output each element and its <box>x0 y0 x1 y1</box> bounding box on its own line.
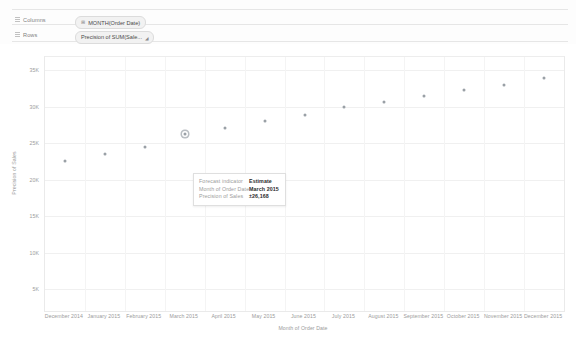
data-point[interactable] <box>263 120 266 123</box>
x-axis-tick-label: January 2015 <box>88 313 121 319</box>
y-axis-title: Precision of Sales <box>11 151 17 194</box>
tooltip-value: March 2015 <box>249 186 279 192</box>
gridline-horizontal <box>45 216 564 217</box>
gridline-vertical <box>524 57 525 311</box>
tooltip-row: Month of Order Date March 2015 <box>199 186 279 194</box>
data-point[interactable] <box>223 127 226 130</box>
gridline-vertical <box>85 57 86 311</box>
expand-plus-icon[interactable]: ⊞ <box>81 20 85 25</box>
gridline-horizontal <box>45 180 564 181</box>
gridline-horizontal <box>45 253 564 254</box>
tooltip-row: Precision of Sales ±26,168 <box>199 193 279 201</box>
tooltip: Forecast indicator Estimate Month of Ord… <box>193 173 286 206</box>
gridline-vertical <box>125 57 126 311</box>
x-axis-title: Month of Order Date <box>278 325 327 331</box>
data-point[interactable] <box>63 160 66 163</box>
rows-label-text: Rows <box>23 32 37 38</box>
data-point[interactable] <box>103 152 106 155</box>
columns-shelf-label: Columns <box>15 17 63 23</box>
gridline-vertical <box>324 57 325 311</box>
visualization-area: 35K30K25K20K15K10K5K Precision of Sales … <box>0 45 576 357</box>
x-axis-tick-label: August 2015 <box>368 313 398 319</box>
x-axis-tick-label: May 2015 <box>252 313 276 319</box>
shelf-area: Columns ⊞ MONTH(Order Date) Rows Precisi… <box>0 0 576 44</box>
y-axis: 35K30K25K20K15K10K5K <box>0 56 44 310</box>
gridline-vertical <box>484 57 485 311</box>
data-point[interactable] <box>383 101 386 104</box>
x-axis-tick-label: February 2015 <box>126 313 161 319</box>
data-point-selected[interactable] <box>183 133 186 136</box>
tooltip-key: Precision of Sales <box>199 193 249 199</box>
gridline-vertical <box>364 57 365 311</box>
y-axis-tick-label: 10K <box>29 250 39 256</box>
plot-area[interactable] <box>44 56 565 312</box>
y-axis-tick-label: 15K <box>29 213 39 219</box>
pill-label: Precision of SUM(Sale... <box>81 34 142 40</box>
gridline-horizontal <box>45 289 564 290</box>
data-point[interactable] <box>343 106 346 109</box>
tooltip-key: Month of Order Date <box>199 186 249 192</box>
y-axis-tick-label: 5K <box>32 286 39 292</box>
y-axis-tick-label: 20K <box>29 177 39 183</box>
x-axis-tick-label: September 2015 <box>403 313 443 319</box>
tooltip-value: ±26,168 <box>249 193 269 199</box>
gridline-vertical <box>165 57 166 311</box>
rows-shelf[interactable]: Rows Precision of SUM(Sale... ◢ <box>0 27 576 42</box>
data-point[interactable] <box>303 114 306 117</box>
rows-shelf-label: Rows <box>15 32 63 38</box>
pill-precision-of-sales[interactable]: Precision of SUM(Sale... ◢ <box>75 31 154 44</box>
x-axis-tick-label: March 2015 <box>170 313 198 319</box>
tableau-worksheet: Columns ⊞ MONTH(Order Date) Rows Precisi… <box>0 0 576 357</box>
data-point[interactable] <box>143 145 146 148</box>
y-axis-tick-label: 25K <box>29 140 39 146</box>
y-axis-tick-label: 30K <box>29 104 39 110</box>
grip-icon <box>15 32 20 37</box>
x-axis-tick-label: December 2015 <box>524 313 562 319</box>
tooltip-value: Estimate <box>249 178 272 184</box>
gridline-horizontal <box>45 143 564 144</box>
rows-shelf-slot[interactable]: Precision of SUM(Sale... ◢ <box>75 25 154 44</box>
gridline-vertical <box>444 57 445 311</box>
gridline-horizontal <box>45 70 564 71</box>
columns-label-text: Columns <box>23 17 46 23</box>
tooltip-row: Forecast indicator Estimate <box>199 178 279 186</box>
x-axis-tick-label: July 2015 <box>332 313 355 319</box>
data-point[interactable] <box>543 77 546 80</box>
x-axis-tick-label: June 2015 <box>291 313 316 319</box>
y-axis-tick-label: 35K <box>29 67 39 73</box>
x-axis: December 2014January 2015February 2015Ma… <box>44 313 563 325</box>
x-axis-tick-label: December 2014 <box>45 313 83 319</box>
grip-icon <box>15 17 20 22</box>
chevron-down-icon[interactable]: ◢ <box>145 35 149 40</box>
x-axis-tick-label: November 2015 <box>484 313 522 319</box>
gridline-vertical <box>404 57 405 311</box>
tooltip-key: Forecast indicator <box>199 178 249 184</box>
gridline-horizontal <box>45 107 564 108</box>
data-point[interactable] <box>423 95 426 98</box>
x-axis-tick-label: April 2015 <box>211 313 235 319</box>
x-axis-tick-label: October 2015 <box>447 313 480 319</box>
data-point[interactable] <box>503 83 506 86</box>
data-point[interactable] <box>463 88 466 91</box>
